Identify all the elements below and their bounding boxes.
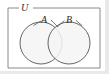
set-a-label: A	[41, 15, 47, 25]
bottom-edge-shade	[0, 71, 109, 74]
universe-label: U	[21, 3, 28, 13]
right-edge-shade	[105, 0, 109, 74]
set-b-label: B	[66, 15, 72, 25]
set-b-circle	[48, 22, 90, 64]
venn-diagram-canvas	[0, 0, 109, 74]
venn-diagram-figure: U A B	[0, 0, 109, 74]
